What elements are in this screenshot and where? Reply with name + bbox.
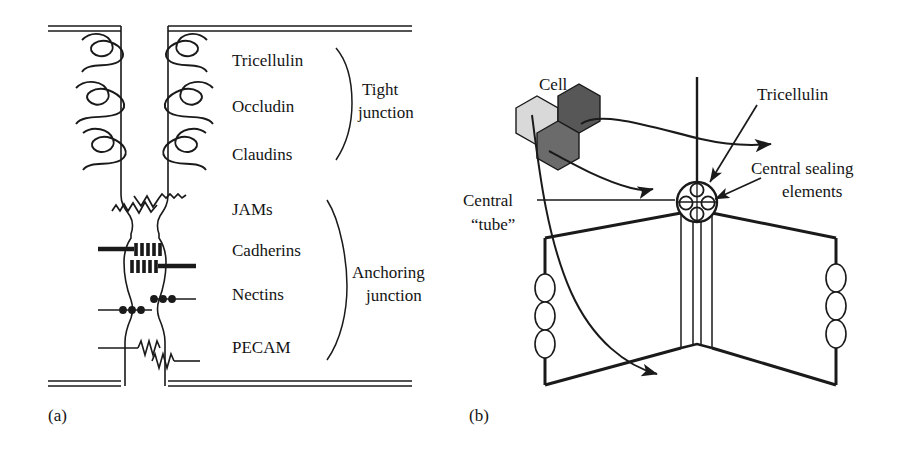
nectins-element xyxy=(98,295,196,314)
membrane-sheets xyxy=(545,210,836,385)
label-cell: Cell xyxy=(539,75,568,94)
label-cadherins: Cadherins xyxy=(232,241,301,260)
tricellulin-strand xyxy=(82,34,207,72)
anchoring-junction-brace xyxy=(327,200,352,360)
panel-b-drawing: Cell xyxy=(461,0,922,450)
pecam-element xyxy=(98,341,200,368)
occludin-strand xyxy=(76,82,213,124)
label-central-sealing-line1: Central sealing xyxy=(751,159,854,178)
right-cell-membrane xyxy=(158,26,169,386)
figure-root: Tricellulin Occludin Claudins JAMs Cadhe… xyxy=(0,0,922,450)
label-tricellulin: Tricellulin xyxy=(232,51,304,70)
label-central-tube-line2: “tube” xyxy=(471,215,515,234)
apical-membrane xyxy=(48,26,412,31)
membrane-ovals-right xyxy=(826,264,846,348)
label-anchoring-junction-line2: junction xyxy=(365,286,422,305)
panel-b-tag: (b) xyxy=(469,406,489,425)
label-jams: JAMs xyxy=(232,200,273,219)
panel-a: Tricellulin Occludin Claudins JAMs Cadhe… xyxy=(0,0,461,450)
label-occludin: Occludin xyxy=(232,97,295,116)
pointer-tricellulin xyxy=(710,105,757,182)
label-pecam: PECAM xyxy=(232,338,291,357)
panel-b: Cell xyxy=(461,0,922,450)
basal-membrane xyxy=(48,381,412,386)
sealing-element xyxy=(701,196,714,209)
panel-a-tag: (a) xyxy=(48,406,67,425)
label-tight-junction-line1: Tight xyxy=(362,80,399,99)
panel-a-drawing: Tricellulin Occludin Claudins JAMs Cadhe… xyxy=(0,0,461,450)
label-nectins: Nectins xyxy=(232,285,284,304)
label-tricellulin-b: Tricellulin xyxy=(757,85,829,104)
pointer-cell-to-membrane xyxy=(581,119,771,145)
label-tight-junction-line2: junction xyxy=(357,103,414,122)
central-sealing-complex xyxy=(677,182,717,222)
cadherins-element xyxy=(98,243,196,273)
pointer-central-sealing-elements xyxy=(715,178,761,199)
label-central-tube-line1: Central xyxy=(463,191,513,210)
cell-hexagon-cluster xyxy=(516,84,600,170)
claudins-strand xyxy=(83,129,206,170)
sealing-element xyxy=(679,196,692,209)
label-anchoring-junction-line1: Anchoring xyxy=(352,263,425,282)
label-central-sealing-line2: elements xyxy=(782,182,842,201)
tight-junction-brace xyxy=(336,48,352,160)
membrane-ovals-left xyxy=(535,274,555,358)
label-claudins: Claudins xyxy=(232,145,292,164)
